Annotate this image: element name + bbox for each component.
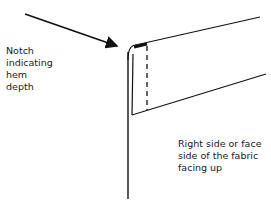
face-side-label: Right side or face side of the fabric fa… bbox=[178, 138, 271, 174]
pointer-arrow bbox=[25, 14, 117, 46]
hem-top-edge bbox=[140, 17, 260, 44]
hem-bottom-edge bbox=[132, 74, 266, 115]
notch-label: Notch indicating hem depth bbox=[6, 45, 66, 93]
hem-diagram bbox=[0, 0, 271, 206]
hem-inner-edge bbox=[132, 54, 133, 115]
